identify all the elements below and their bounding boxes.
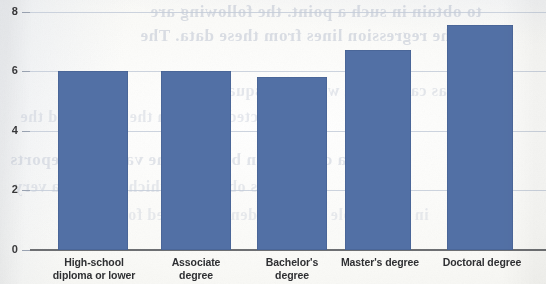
bar (447, 25, 513, 250)
x-axis-tick-label: Doctoral degree (432, 256, 532, 269)
gridline (30, 12, 546, 13)
y-axis-tick-label: 6 (0, 65, 18, 76)
x-axis-tick-label: Associate degree (150, 256, 242, 281)
y-axis-tick-mark (22, 12, 30, 13)
bar (257, 77, 327, 250)
x-axis-tick-label: High-school diploma or lower (40, 256, 148, 281)
y-axis-tick-label: 2 (0, 184, 18, 195)
bar (345, 50, 411, 250)
x-axis-tick-label: Master's degree (330, 256, 430, 269)
y-axis-tick-mark (22, 250, 30, 251)
y-axis-tick-label: 8 (0, 6, 18, 17)
bar (161, 71, 231, 250)
y-axis-tick-mark (22, 71, 30, 72)
y-axis-tick-mark (22, 131, 30, 132)
y-axis-tick-mark (22, 190, 30, 191)
bar-chart: 02468 High-school diploma or lowerAssoci… (0, 0, 546, 284)
bar (58, 71, 128, 250)
y-axis-tick-label: 4 (0, 125, 18, 136)
y-axis-tick-label: 0 (0, 244, 18, 255)
x-axis-tick-label: Bachelor's degree (248, 256, 336, 281)
